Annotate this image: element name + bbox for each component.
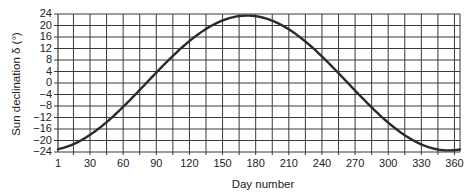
- x-tick-label: 240: [313, 157, 331, 169]
- y-tick-label: 16: [40, 30, 52, 42]
- y-tick-label: −8: [39, 99, 52, 111]
- y-axis-ticks: 24201612840−4−8−12−16−20−24: [33, 7, 52, 157]
- y-tick-label: 12: [40, 42, 52, 54]
- x-tick-label: 90: [150, 157, 162, 169]
- x-tick-label: 330: [412, 157, 430, 169]
- x-tick-label: 360: [445, 157, 463, 169]
- x-tick-label: 180: [247, 157, 265, 169]
- y-tick-label: 20: [40, 19, 52, 31]
- grid-lines: [54, 14, 460, 155]
- x-tick-label: 150: [213, 157, 231, 169]
- x-axis-ticks: 1306090120150180210240270300330360: [55, 157, 464, 169]
- x-tick-label: 60: [117, 157, 129, 169]
- x-tick-label: 300: [379, 157, 397, 169]
- y-tick-label: −4: [39, 88, 52, 100]
- x-tick-label: 270: [346, 157, 364, 169]
- declination-chart: 24201612840−4−8−12−16−20−24 130609012015…: [0, 0, 473, 195]
- x-tick-label: 210: [280, 157, 298, 169]
- x-tick-label: 1: [55, 157, 61, 169]
- y-tick-label: 0: [46, 76, 52, 88]
- y-tick-label: −24: [33, 145, 52, 157]
- y-tick-label: 8: [46, 53, 52, 65]
- x-tick-label: 120: [180, 157, 198, 169]
- x-tick-label: 30: [84, 157, 96, 169]
- y-tick-label: −20: [33, 134, 52, 146]
- y-tick-label: 24: [40, 7, 52, 19]
- y-axis-label: Sun declination δ (°): [10, 32, 22, 136]
- y-tick-label: 4: [46, 65, 52, 77]
- x-axis-label: Day number: [232, 178, 295, 190]
- y-tick-label: −16: [33, 122, 52, 134]
- y-tick-label: −12: [33, 111, 52, 123]
